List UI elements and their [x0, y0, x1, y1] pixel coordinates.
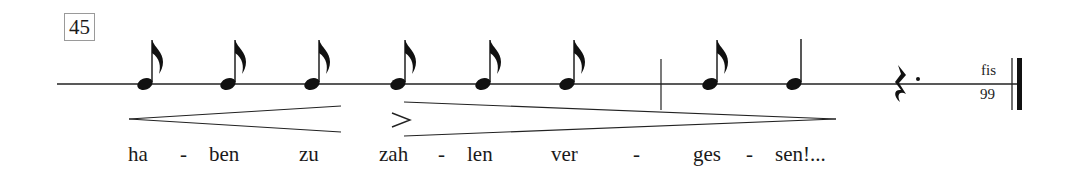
note-8-quarter	[784, 39, 803, 92]
lyric-syllable: zah	[379, 142, 408, 167]
rest-dot	[916, 77, 920, 81]
decrescendo-hairpin	[404, 102, 836, 136]
lyric-hyphen: -	[633, 142, 640, 167]
lyric-syllable: zu	[299, 142, 319, 167]
accent-icon	[392, 113, 410, 127]
crescendo-hairpin	[129, 106, 341, 132]
lyric-hyphen: -	[746, 142, 753, 167]
lyric-hyphen: -	[438, 142, 445, 167]
annotation-bottom: 99	[980, 86, 995, 103]
rehearsal-mark: 45	[64, 13, 95, 41]
lyric-syllable: ben	[209, 142, 239, 167]
lyric-hyphen: -	[180, 142, 187, 167]
annotation-top: fis	[981, 62, 996, 79]
lyric-syllable: ha	[128, 142, 148, 167]
lyric-syllable: len	[467, 142, 493, 167]
lyric-syllable: sen!...	[775, 142, 826, 167]
lyric-syllable: ges	[693, 142, 721, 167]
score-staff-graphics	[0, 0, 1070, 176]
music-score: 45 fis 99 ha - ben zu zah - len ver - ge…	[0, 0, 1070, 176]
lyric-syllable: ver	[551, 142, 578, 167]
